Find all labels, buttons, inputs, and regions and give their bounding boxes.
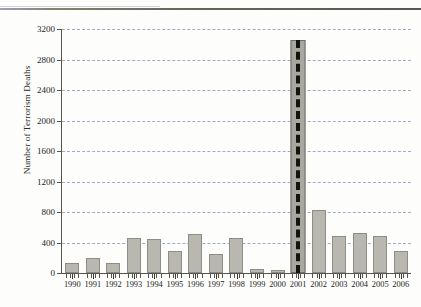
x-tick-1998 <box>237 274 238 279</box>
x-tick-minor <box>210 274 211 278</box>
x-tick-minor <box>243 274 244 278</box>
x-tick-minor <box>362 274 363 278</box>
x-tick-minor <box>386 274 387 278</box>
x-tick-minor <box>128 274 129 278</box>
x-tick-minor <box>230 274 231 278</box>
x-tick-minor <box>337 274 338 278</box>
x-tick-label-1994: 1994 <box>146 280 163 289</box>
y-axis-title: Number of Terrorism Deaths <box>22 25 36 215</box>
x-tick-minor <box>292 274 293 278</box>
x-tick-minor <box>300 274 301 278</box>
x-tick-label-1992: 1992 <box>105 280 122 289</box>
bar-slot-1999 <box>247 29 268 273</box>
x-tick-minor <box>99 274 100 278</box>
bar-2003 <box>332 236 346 273</box>
x-tick-minor <box>382 274 383 278</box>
x-tick-minor <box>111 274 112 278</box>
x-tick-minor <box>197 274 198 278</box>
bar-1993 <box>127 238 141 273</box>
x-tick-2006 <box>401 274 402 279</box>
x-tick-minor <box>119 274 120 278</box>
y-tick-label-1600: 1600 <box>37 146 55 156</box>
x-tick-minor <box>218 274 219 278</box>
bar-2006 <box>394 251 408 273</box>
x-tick-1999 <box>257 274 258 279</box>
x-tick-1995 <box>175 274 176 279</box>
x-tick-minor <box>284 274 285 278</box>
x-tick-minor <box>407 274 408 278</box>
page-root: Number of Terrorism Deaths 0400800120016… <box>0 0 421 307</box>
x-tick-minor <box>193 274 194 278</box>
y-tick-label-2800: 2800 <box>37 55 55 65</box>
plot-area: 0400800120016002000240028003200 <box>61 29 411 274</box>
x-tick-label-1995: 1995 <box>167 280 184 289</box>
x-tick-1990 <box>72 274 73 279</box>
bar-slot-1996 <box>185 29 206 273</box>
x-tick-minor <box>296 274 297 278</box>
x-tick-label-2000: 2000 <box>269 280 286 289</box>
bar-slot-1992 <box>103 29 124 273</box>
x-tick-minor <box>312 274 313 278</box>
bar-1994 <box>147 239 161 273</box>
x-tick-minor <box>177 274 178 278</box>
bar-1997 <box>209 254 223 273</box>
bar-slot-1991 <box>83 29 104 273</box>
x-tick-minor <box>354 274 355 278</box>
bar-1999 <box>250 269 264 273</box>
y-tick-label-3200: 3200 <box>37 24 55 34</box>
x-tick-minor <box>181 274 182 278</box>
x-tick-minor <box>345 274 346 278</box>
x-tick-minor <box>66 274 67 278</box>
x-tick-label-2003: 2003 <box>331 280 348 289</box>
bar-1990 <box>65 263 79 273</box>
x-tick-minor <box>161 274 162 278</box>
x-tick-minor <box>95 274 96 278</box>
x-tick-minor <box>374 274 375 278</box>
x-tick-minor <box>173 274 174 278</box>
x-tick-minor <box>234 274 235 278</box>
x-tick-label-1991: 1991 <box>84 280 101 289</box>
x-tick-2005 <box>380 274 381 279</box>
x-tick-label-2004: 2004 <box>351 280 368 289</box>
bar-slot-2006 <box>390 29 411 273</box>
x-tick-minor <box>358 274 359 278</box>
y-tick-label-0: 0 <box>51 268 56 278</box>
x-tick-minor <box>341 274 342 278</box>
x-tick-label-1990: 1990 <box>64 280 81 289</box>
x-tick-minor <box>78 274 79 278</box>
x-tick-minor <box>259 274 260 278</box>
bar-1991 <box>86 258 100 273</box>
x-tick-minor <box>366 274 367 278</box>
x-tick-label-2005: 2005 <box>372 280 389 289</box>
x-tick-minor <box>136 274 137 278</box>
bar-2004 <box>353 233 367 273</box>
y-tick-label-2000: 2000 <box>37 116 55 126</box>
x-tick-1994 <box>154 274 155 279</box>
bar-slot-2004 <box>349 29 370 273</box>
x-tick-minor <box>280 274 281 278</box>
x-tick-2002 <box>319 274 320 279</box>
bar-1996 <box>188 234 202 273</box>
x-tick-minor <box>255 274 256 278</box>
x-tick-minor <box>132 274 133 278</box>
bar-1995 <box>168 251 182 273</box>
x-tick-minor <box>222 274 223 278</box>
x-tick-minor <box>189 274 190 278</box>
y-tick-label-800: 800 <box>42 207 56 217</box>
x-tick-minor <box>87 274 88 278</box>
x-tick-minor <box>321 274 322 278</box>
x-tick-minor <box>395 274 396 278</box>
bar-slot-2003 <box>329 29 350 273</box>
x-tick-minor <box>152 274 153 278</box>
x-tick-1997 <box>216 274 217 279</box>
x-tick-minor <box>169 274 170 278</box>
bar-slot-1994 <box>144 29 165 273</box>
x-tick-minor <box>148 274 149 278</box>
bar-2002 <box>312 210 326 273</box>
x-tick-minor <box>276 274 277 278</box>
x-tick-minor <box>140 274 141 278</box>
x-tick-label-1999: 1999 <box>249 280 266 289</box>
bar-slot-2000 <box>267 29 288 273</box>
bar-slot-1993 <box>124 29 145 273</box>
x-tick-minor <box>399 274 400 278</box>
